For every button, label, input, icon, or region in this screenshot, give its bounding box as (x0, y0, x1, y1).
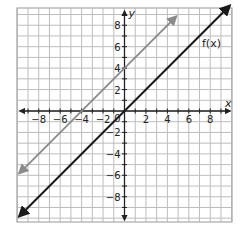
x-axis-label: x (224, 97, 232, 110)
x-tick-label: 6 (186, 114, 192, 125)
y-tick-label: −8 (106, 192, 121, 203)
x-tick-label: −2 (96, 114, 111, 125)
y-tick-label: −4 (106, 149, 121, 160)
x-tick-label: 4 (164, 114, 170, 125)
y-tick-label: −2 (106, 127, 121, 138)
y-tick-label: 2 (114, 85, 120, 96)
y-tick-label: −6 (106, 170, 121, 181)
translated-line (19, 17, 176, 174)
x-tick-label: −6 (53, 114, 68, 125)
x-tick-label: −8 (31, 114, 46, 125)
axes (20, 11, 230, 220)
coordinate-plane: −8−6−4−224688642−2−4−6−80 x y f(x) (0, 0, 240, 232)
x-tick-label: 2 (143, 114, 149, 125)
f-x-label: f(x) (202, 37, 221, 50)
x-tick-label: 8 (207, 114, 213, 125)
y-tick-label: 8 (114, 20, 120, 31)
y-tick-label: 6 (114, 42, 120, 53)
y-axis-label: y (128, 7, 136, 20)
